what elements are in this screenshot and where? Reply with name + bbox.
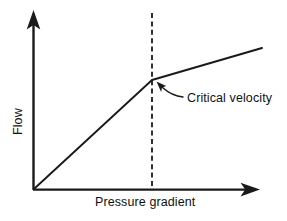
- flow-pressure-gradient-chart: Critical velocity Pressure gradient Flow: [0, 0, 287, 221]
- callout-arrowhead-icon: [157, 82, 167, 93]
- y-axis-label: Flow: [11, 107, 25, 135]
- callout-arrow-curve: [163, 88, 184, 98]
- figure-container: Critical velocity Pressure gradient Flow: [0, 0, 287, 221]
- data-series-group: [35, 48, 263, 189]
- critical-velocity-label: Critical velocity: [187, 91, 273, 105]
- x-axis-label: Pressure gradient: [95, 195, 196, 209]
- series-segment-turbulent: [152, 48, 262, 80]
- critical-velocity-callout: [157, 82, 184, 98]
- series-segment-laminar: [35, 80, 153, 189]
